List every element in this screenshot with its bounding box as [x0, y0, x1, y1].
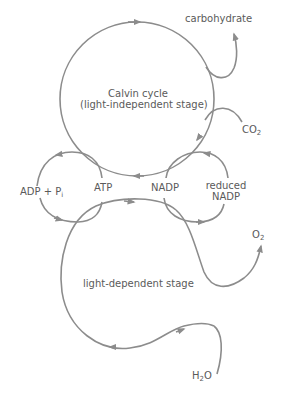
co2-label: CO2 — [242, 124, 261, 139]
o2-label: O2 — [252, 229, 264, 244]
h2o-label: H2O — [192, 370, 212, 385]
light-arrow-top — [124, 201, 134, 202]
atp-label: ATP — [94, 182, 112, 193]
light-arrow-h2o — [176, 329, 184, 332]
adp-atp-loop-lower — [40, 198, 102, 222]
adp-base: ADP + P — [20, 186, 61, 197]
calvin-cycle-subtitle: (light-independent stage) — [80, 99, 196, 110]
calvin-cycle-label: Calvin cycle (light-independent stage) — [80, 88, 196, 110]
reduced-nadp-label: reduced NADP — [204, 180, 248, 202]
co2-base: CO — [242, 124, 257, 135]
nadp-label: NADP — [151, 182, 179, 193]
o2-sub: 2 — [260, 234, 264, 242]
carbohydrate-label: carbohydrate — [185, 13, 252, 24]
adp-atp-lower-arrow — [54, 218, 62, 220]
reduced-nadp-line1: reduced — [204, 180, 248, 191]
adp-atp-loop-upper — [37, 152, 102, 186]
light-dependent-label: light-dependent stage — [83, 278, 194, 289]
o2-base: O — [252, 229, 260, 240]
reduced-nadp-line2: NADP — [204, 191, 248, 202]
adp-sub: i — [61, 191, 63, 199]
co2-sub: 2 — [257, 129, 261, 137]
h2o-base-o: O — [204, 370, 212, 381]
calvin-cycle-title: Calvin cycle — [80, 88, 196, 99]
calvin-arrow-right — [197, 136, 200, 140]
nadp-upper-arrow — [204, 153, 210, 154]
h2o-base-h: H — [192, 370, 200, 381]
h2o-arrow — [214, 326, 221, 374]
adp-pi-label: ADP + Pi — [20, 186, 63, 201]
carbohydrate-arrow — [206, 34, 237, 78]
adp-atp-upper-arrow — [56, 154, 62, 155]
